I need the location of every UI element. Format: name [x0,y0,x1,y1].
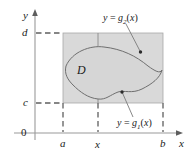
lower-boundary-marker [120,90,123,93]
figure-graphic [0,0,194,160]
lower-boundary-label: y = g1(x) [117,118,152,131]
y-axis-arrowhead [32,9,38,16]
x-axis-arrowhead [176,130,183,136]
y-axis-label: y [23,10,28,21]
origin-label: 0 [21,127,27,138]
x-axis-label: x [179,138,184,149]
upper-boundary-marker [139,50,142,53]
x-tick-label: x [95,139,100,150]
figure-container: y x 0 d c a x b D y = g2(x) y = g1(x) [0,0,194,160]
b-tick-label: b [160,138,166,149]
a-tick-label: a [60,138,66,149]
d-tick-label: d [22,27,28,38]
c-tick-label: c [23,97,28,108]
upper-boundary-label: y = g2(x) [103,13,138,26]
region-d-label: D [77,64,86,76]
